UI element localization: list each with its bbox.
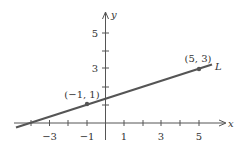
line-label: L [214,61,222,72]
line-L: L [16,61,222,128]
point-label: (−1, 1) [64,89,99,100]
x-tick-label: 5 [196,131,202,142]
point-label: (5, 3) [185,53,212,64]
point-neg1-1: (−1, 1) [64,89,99,106]
y-tick-label: 3 [92,63,98,74]
x-tick-label: 1 [121,131,127,142]
y-axis-label: y [110,9,117,20]
y-axis: 3 5 y [92,9,117,140]
y-tick-label: 5 [92,28,98,39]
x-tick-label: −1 [80,131,95,142]
x-tick-label: 3 [158,131,164,142]
chart: −3 −1 1 3 5 x 3 5 y L (−1, 1) (5, 3) [0,0,246,151]
x-axis: −3 −1 1 3 5 x [14,118,234,142]
x-axis-label: x [228,118,234,129]
point-5-3: (5, 3) [185,53,212,71]
x-tick-label: −3 [42,131,57,142]
